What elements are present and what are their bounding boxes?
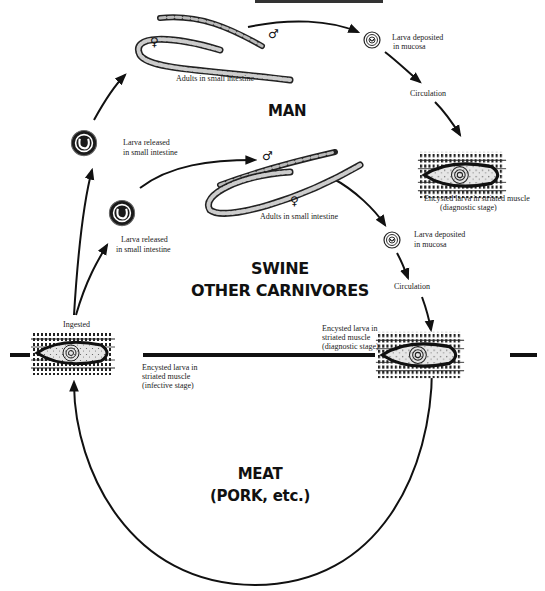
label-swine-released-1: Larva released [121,235,168,244]
host-carnivores-title: OTHER CARNIVORES [180,281,380,300]
coiled-larva-icon [364,32,380,48]
label-swine-deposited-1: Larva deposited [414,230,465,239]
label-ingested: Ingested [63,320,90,329]
host-swine-title: SWINE [180,259,380,278]
label-swine-adults: Adults in small intestine [260,212,338,221]
host-man-title: MAN [268,102,306,120]
coiled-larva-icon [384,232,400,248]
label-man-released-2: in small intestine [123,148,178,157]
encysted-larva-muscle-icon [418,152,506,198]
label-swine-circulation: Circulation [394,282,430,291]
label-man-adults: Adults in small intestine [176,74,254,83]
label-swine-encysted-1: Encysted larva in [322,324,378,333]
label-man-deposited-1: Larva deposited [392,33,443,42]
label-swine-encysted-2: striated muscle [322,333,370,342]
label-swine-deposited-2: in mucosa [414,240,447,249]
label-man-circulation: Circulation [410,89,446,98]
label-man-encysted-1: Encysted larva in striated muscle [424,194,530,203]
label-infective-2: striated muscle [142,372,190,381]
label-swine-encysted-3: (diagnostic stage) [322,342,379,351]
label-swine-released-2: in small intestine [116,245,171,254]
host-meat-subtitle: (PORK, etc.) [200,487,320,505]
female-symbol: ♀ [290,195,299,207]
label-man-encysted-2: (diagnostic stage) [440,203,497,212]
top-rule [255,0,383,3]
male-symbol: ♂ [262,150,273,162]
label-infective-3: (infective stage) [142,381,194,390]
label-man-deposited-2: in mucosa [393,42,426,51]
label-infective-1: Encysted larva in [142,363,198,372]
male-symbol: ♂ [268,28,279,40]
encysted-larva-muscle-icon [31,331,115,375]
host-meat-title: MEAT [200,465,320,483]
encysted-larva-muscle-icon [376,332,464,378]
label-man-released-1: Larva released [123,138,170,147]
coiled-larva-icon [109,200,134,225]
coiled-larva-icon [71,130,96,155]
female-symbol: ♀ [150,36,159,48]
